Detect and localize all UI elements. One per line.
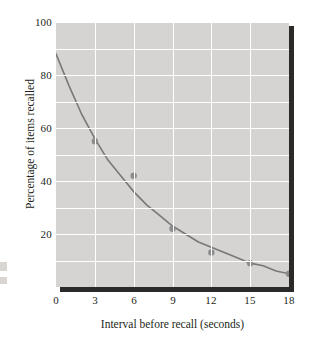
- x-axis-tick-label: 15: [237, 295, 263, 306]
- gridline-vertical: [211, 22, 212, 287]
- x-axis-tick-label: 0: [43, 295, 69, 306]
- forgetting-curve-figure: 20406080100 0369121518 Percentage of ite…: [0, 0, 313, 341]
- x-axis-tick-label: 12: [198, 295, 224, 306]
- x-axis-tick-label: 6: [121, 295, 147, 306]
- x-axis-tick-label: 9: [160, 295, 186, 306]
- x-axis-tick-label: 18: [276, 295, 302, 306]
- gridline-vertical: [250, 22, 251, 287]
- x-axis-tick-labels: 0369121518: [56, 295, 289, 309]
- x-axis-title: Interval before recall (seconds): [56, 318, 289, 331]
- y-axis-tick-label: 100: [14, 17, 52, 28]
- gridline-vertical: [173, 22, 174, 287]
- x-axis-tick-label: 3: [82, 295, 108, 306]
- page-bleed-mark: [0, 262, 7, 271]
- gridline-vertical: [134, 22, 135, 287]
- y-axis-title: Percentage of items recalled: [24, 44, 36, 244]
- page-bleed-mark: [0, 277, 7, 284]
- plot-area: [56, 22, 289, 287]
- gridline-vertical: [95, 22, 96, 287]
